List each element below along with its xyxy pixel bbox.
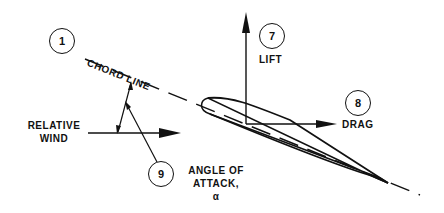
callout-9-circle: 9 [148,161,174,187]
lift-arrowhead [242,12,250,33]
relative-wind-label: RELATIVE WIND [22,119,86,145]
drag-arrowhead [316,120,337,128]
lift-label: LIFT [259,53,282,66]
aoa-line1: ANGLE OF [180,164,252,177]
aoa-line3: α [180,190,252,203]
relative-wind-line1: RELATIVE [22,119,86,132]
relative-wind-arrowhead [159,128,181,138]
callout-7-circle: 7 [259,23,285,49]
callout-1-circle: 1 [49,28,75,54]
relative-wind-line2: WIND [22,132,86,145]
aoa-line2: ATTACK, [180,177,252,190]
drag-label: DRAG [342,118,373,131]
angle-of-attack-label: ANGLE OF ATTACK, α [180,164,252,203]
callout-8-circle: 8 [345,90,371,116]
